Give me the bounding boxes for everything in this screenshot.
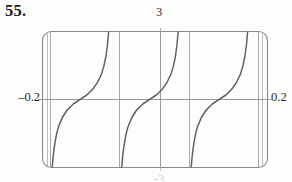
plot-canvas bbox=[0, 0, 292, 182]
figure-container: 55. 3 –0.2 0.2 -3 bbox=[0, 0, 292, 182]
